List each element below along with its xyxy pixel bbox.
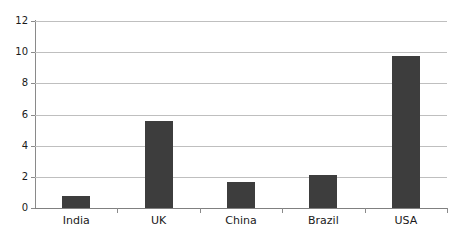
bar-chart: 024681012 IndiaUKChinaBrazilUSA bbox=[0, 0, 460, 242]
gridline-y-6 bbox=[35, 115, 447, 116]
plot-area bbox=[35, 21, 447, 208]
gridline-y-10 bbox=[35, 52, 447, 53]
x-tick-mark-1 bbox=[117, 208, 118, 213]
bar-usa bbox=[392, 56, 420, 208]
bar-brazil bbox=[309, 175, 337, 209]
bar-uk bbox=[145, 121, 173, 208]
x-axis-tick-labels: IndiaUKChinaBrazilUSA bbox=[35, 214, 447, 230]
gridline-y-8 bbox=[35, 83, 447, 84]
bar-china bbox=[227, 182, 255, 208]
y-tick-label-6: 6 bbox=[0, 110, 28, 120]
x-tick-mark-2 bbox=[200, 208, 201, 213]
y-tick-label-4: 4 bbox=[0, 141, 28, 151]
x-tick-mark-3 bbox=[282, 208, 283, 213]
y-tick-label-8: 8 bbox=[0, 78, 28, 88]
gridline-y-12 bbox=[35, 21, 447, 22]
x-tick-label-china: China bbox=[225, 214, 256, 228]
y-axis-tick-labels: 024681012 bbox=[0, 0, 31, 242]
bar-india bbox=[62, 196, 90, 208]
y-tick-label-10: 10 bbox=[0, 47, 28, 57]
x-tick-label-uk: UK bbox=[151, 214, 166, 228]
x-tick-label-india: India bbox=[63, 214, 90, 228]
x-tick-label-usa: USA bbox=[394, 214, 417, 228]
x-tick-label-brazil: Brazil bbox=[308, 214, 339, 228]
x-tick-mark-4 bbox=[365, 208, 366, 213]
y-tick-label-2: 2 bbox=[0, 172, 28, 182]
y-tick-label-12: 12 bbox=[0, 16, 28, 26]
y-tick-label-0: 0 bbox=[0, 203, 28, 213]
gridline-y-4 bbox=[35, 146, 447, 147]
gridline-y-2 bbox=[35, 177, 447, 178]
x-tick-mark-5 bbox=[447, 208, 448, 213]
